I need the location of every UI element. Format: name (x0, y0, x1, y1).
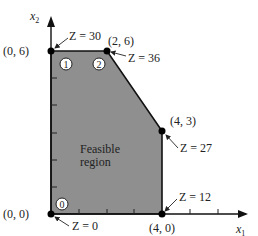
region-label-line1: Feasible (80, 142, 120, 156)
coord-label-4-0: (4, 0) (149, 221, 175, 235)
feasible-region-diagram: x2 x1 Feasible region 0 1 2 (0, 0) (0, 6… (0, 0, 258, 236)
coord-label-0-0: (0, 0) (3, 207, 29, 221)
x-axis-label: x1 (235, 222, 245, 236)
x-axis-arrow-icon (238, 210, 248, 218)
arrow-z36 (111, 52, 126, 56)
marker-0: 0 (56, 198, 68, 210)
svg-text:1: 1 (64, 59, 69, 70)
arrow-z30 (55, 38, 68, 48)
z-label-0-6: Z = 30 (69, 29, 101, 43)
arrow-z0 (55, 217, 69, 226)
svg-text:2: 2 (97, 59, 102, 70)
coord-label-2-6: (2, 6) (108, 34, 134, 48)
z-label-2-6: Z = 36 (128, 51, 160, 65)
y-axis-arrow-icon (47, 16, 55, 27)
arrow-z27 (166, 135, 178, 148)
feasible-region (51, 51, 162, 214)
svg-text:0: 0 (60, 199, 65, 210)
z-label-4-3: Z = 27 (180, 141, 212, 155)
coord-label-4-3: (4, 3) (170, 114, 196, 128)
marker-1: 1 (60, 58, 72, 70)
y-axis-label: x2 (29, 9, 39, 25)
arrow-z12 (165, 199, 177, 211)
z-label-4-0: Z = 12 (179, 190, 211, 204)
region-label-line2: region (80, 155, 111, 169)
coord-label-0-6: (0, 6) (3, 44, 29, 58)
z-label-0-0: Z = 0 (72, 219, 98, 233)
marker-2: 2 (93, 58, 105, 70)
